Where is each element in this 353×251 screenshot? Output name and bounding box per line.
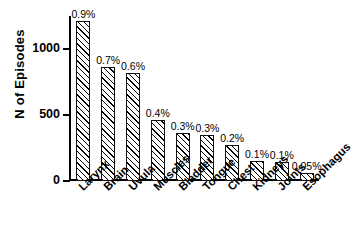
bar-value-label: 0.4%: [141, 108, 175, 119]
y-axis-title: N of Episodes: [12, 14, 32, 134]
y-axis-tick-label: 500: [39, 108, 60, 121]
y-axis-tick: [63, 180, 70, 182]
bar-value-label: 0.2%: [215, 133, 249, 144]
y-axis-tick-label: 0: [53, 174, 60, 187]
bar: [126, 73, 140, 181]
bar-value-label: 0.6%: [116, 61, 150, 72]
y-axis-tick-label: 1000: [32, 42, 60, 55]
bar: [76, 21, 90, 181]
y-axis-tick: [63, 48, 70, 50]
y-axis-tick: [63, 114, 70, 116]
bar-value-label: 0.9%: [66, 9, 100, 20]
